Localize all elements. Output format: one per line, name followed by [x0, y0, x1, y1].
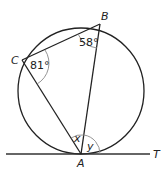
angle-y-label: y — [87, 141, 94, 152]
point-b-label: B — [101, 11, 109, 22]
point-c-label: C — [11, 55, 19, 66]
angle-b-label: 58° — [79, 37, 99, 48]
chord-ca — [22, 60, 81, 154]
circle-theorem-diagram: B C A T 81° 58° x y — [0, 0, 164, 171]
point-t-label: T — [153, 149, 160, 160]
point-a-label: A — [77, 158, 85, 169]
angle-x-label: x — [74, 133, 81, 144]
angle-c-label: 81° — [30, 60, 50, 71]
diagram-canvas — [0, 0, 164, 171]
